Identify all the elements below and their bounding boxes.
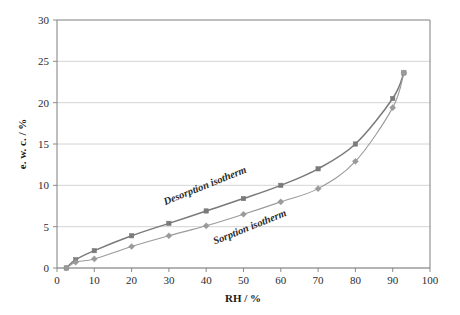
data-point-marker	[279, 183, 283, 187]
y-axis-title: e. w. c. / %	[16, 119, 28, 169]
y-tick-label-0: 0	[44, 262, 50, 274]
x-tick-label-30: 30	[163, 274, 175, 286]
y-tick-label-20: 20	[38, 97, 50, 109]
y-tick-label-15: 15	[38, 138, 50, 150]
data-point-marker	[316, 167, 320, 171]
x-tick-label-70: 70	[313, 274, 325, 286]
x-tick-label-40: 40	[201, 274, 213, 286]
data-point-marker	[92, 248, 96, 252]
y-tick-label-30: 30	[38, 14, 50, 26]
x-tick-label-50: 50	[238, 274, 250, 286]
data-point-marker	[204, 209, 208, 213]
x-tick-label-80: 80	[350, 274, 362, 286]
data-point-marker	[129, 234, 133, 238]
sorption-isotherm-chart: 0102030405060708090100 051015202530 Deso…	[0, 0, 460, 315]
y-tick-label-10: 10	[38, 179, 50, 191]
data-point-marker	[391, 96, 395, 100]
data-point-marker	[353, 142, 357, 146]
x-tick-label-10: 10	[89, 274, 101, 286]
x-tick-label-60: 60	[275, 274, 287, 286]
x-axis-title: RH / %	[225, 292, 261, 304]
data-point-marker	[241, 196, 245, 200]
x-tick-label-100: 100	[422, 274, 439, 286]
chart-container: 0102030405060708090100 051015202530 Deso…	[0, 0, 460, 315]
x-tick-label-0: 0	[54, 274, 60, 286]
y-tick-label-25: 25	[38, 55, 50, 67]
y-tick-label-5: 5	[44, 221, 50, 233]
x-tick-label-90: 90	[387, 274, 399, 286]
data-point-marker	[167, 221, 171, 225]
x-tick-label-20: 20	[126, 274, 138, 286]
